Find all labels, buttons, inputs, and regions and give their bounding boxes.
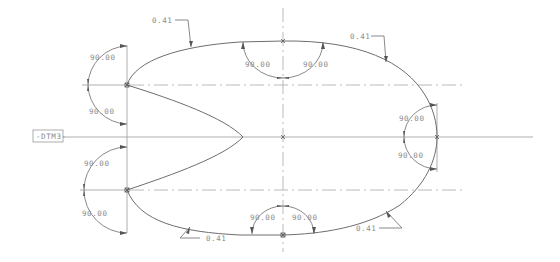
- angle-dim-text-top-right[interactable]: 90.00: [303, 60, 329, 69]
- arrow-icon: [241, 42, 245, 49]
- arrow-icon: [120, 145, 127, 149]
- arrow-icon: [283, 205, 289, 207]
- arrow-icon: [83, 190, 85, 196]
- leader-line-top-right[interactable]: [371, 36, 386, 62]
- angle-dim-text-bottom-right[interactable]: 90.00: [292, 213, 318, 222]
- leader-line-bottom-right[interactable]: [379, 211, 402, 228]
- leader-line-top-left[interactable]: [175, 20, 191, 47]
- arrow-icon: [403, 137, 405, 143]
- angle-dim-text-left-lower-top[interactable]: 90.00: [84, 159, 110, 168]
- angle-dim-text-left-lower-bottom[interactable]: 90.00: [82, 209, 108, 218]
- arrow-icon: [120, 44, 127, 48]
- datum-label-text: -DTM3-: [36, 132, 67, 141]
- arrow-icon: [250, 227, 254, 234]
- arrow-icon: [277, 205, 283, 207]
- angle-dim-text-right-top[interactable]: 90.00: [399, 114, 425, 123]
- arrow-icon: [403, 131, 405, 137]
- arrow-icon: [83, 184, 85, 190]
- angle-dim-text-top-left[interactable]: 90.00: [245, 60, 271, 69]
- arrow-icon: [87, 85, 89, 91]
- arrow-icon: [87, 79, 89, 85]
- arrow-icon: [189, 41, 193, 47]
- arrow-icon: [283, 77, 289, 79]
- arrow-icon: [430, 103, 437, 107]
- arrow-icon: [120, 231, 127, 235]
- leader-dim-text-top-right[interactable]: 0.41: [350, 32, 370, 41]
- angle-dim-text-left-upper-bottom[interactable]: 90.00: [89, 107, 115, 116]
- angle-dim-text-left-upper-top[interactable]: 90.00: [90, 53, 116, 62]
- angle-dim-text-right-bottom[interactable]: 90.00: [398, 151, 424, 160]
- arrow-icon: [277, 77, 283, 79]
- leader-dim-text-top-left[interactable]: 0.41: [152, 16, 172, 25]
- cad-drawing-canvas: -DTM3-: [0, 0, 560, 262]
- datum-label[interactable]: -DTM3-: [33, 130, 67, 142]
- inner-notch-curve[interactable]: [127, 85, 243, 190]
- arrow-icon: [430, 167, 437, 171]
- arrow-icon: [120, 122, 127, 126]
- angle-dim-text-bottom-left[interactable]: 90.00: [250, 213, 276, 222]
- leader-dim-text-bottom-right[interactable]: 0.41: [356, 224, 376, 233]
- leader-dim-text-bottom-left[interactable]: 0.41: [206, 234, 226, 243]
